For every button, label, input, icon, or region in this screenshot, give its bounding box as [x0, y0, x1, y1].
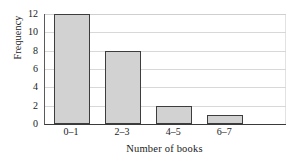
bar: [54, 14, 90, 124]
x-tick-label: 4–5: [166, 126, 181, 138]
y-tick-label: 12: [28, 9, 38, 19]
y-tick-label: 6: [33, 64, 38, 74]
bar: [156, 106, 192, 124]
y-tick-label: 0: [33, 119, 38, 129]
x-tick-label: 0–1: [64, 126, 79, 138]
bar: [105, 51, 141, 124]
y-tick-label: 8: [33, 46, 38, 56]
bars-layer: [45, 14, 286, 124]
x-axis-ticks: 0–12–34–56–7: [44, 126, 285, 140]
x-tick-label: 2–3: [115, 126, 130, 138]
plot-area: [44, 14, 286, 125]
bar: [207, 115, 243, 124]
y-tick-label: 2: [33, 101, 38, 111]
x-axis-title: Number of books: [44, 143, 285, 154]
y-tick-label: 10: [28, 27, 38, 37]
y-tick-label: 4: [33, 82, 38, 92]
x-tick-label: 6–7: [217, 126, 232, 138]
histogram-chart: Frequency 024681012 0–12–34–56–7 Number …: [0, 0, 293, 162]
y-axis-ticks: 024681012: [18, 10, 38, 125]
